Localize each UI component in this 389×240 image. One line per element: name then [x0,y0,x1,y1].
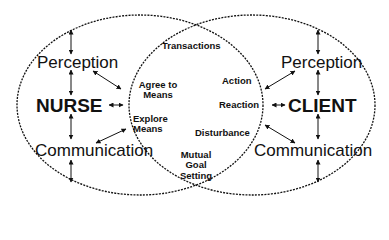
disturbance-label: Disturbance [195,128,250,138]
transactions-label: Transactions [162,41,221,51]
client-communication-label: Communication [254,142,372,159]
nurse-perception-label: Perception [37,54,118,71]
nurse-title: NURSE [36,96,103,115]
agree-to-means-label: Agree to Means [133,80,183,101]
client-title: CLIENT [288,96,357,115]
explore-means-label: Explore Means [133,114,175,135]
reaction-label: Reaction [219,100,259,110]
nurse-communication-label: Communication [35,142,153,159]
client-perception-label: Perception [281,54,362,71]
mutual-goal-setting-label: Mutual Goal Setting [172,150,220,181]
action-label: Action [222,76,252,86]
